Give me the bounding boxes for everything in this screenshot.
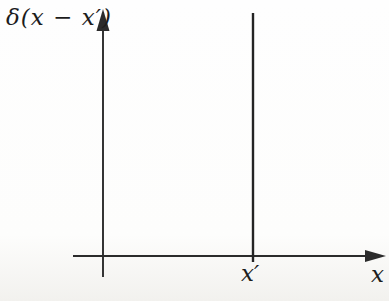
x-axis-label: x [371, 263, 384, 286]
dirac-delta-figure: δ(x − x′) x′ x [0, 0, 389, 301]
spike-position-label: x′ [241, 262, 259, 285]
axes-canvas [0, 0, 389, 301]
y-axis-label: δ(x − x′) [6, 6, 112, 29]
